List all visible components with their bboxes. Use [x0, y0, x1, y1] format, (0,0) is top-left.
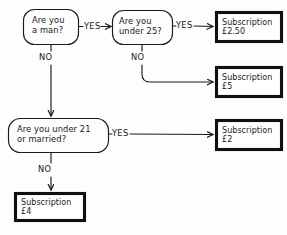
edge-label-u21-no: NO	[38, 164, 51, 174]
edge-label-u25-no: NO	[131, 52, 144, 62]
node-shape-q-under-21	[9, 119, 109, 153]
edge-label-man-no: NO	[39, 52, 52, 62]
edge-label-man-yes: YES	[84, 21, 100, 31]
edge-label-u25-yes: YES	[176, 20, 192, 30]
node-shape-sub-4	[16, 194, 85, 221]
flowchart-canvas: Are you a man? Are you under 25? Are you…	[0, 0, 287, 235]
node-shape-sub-5	[217, 68, 282, 97]
node-shape-sub-250	[217, 13, 282, 42]
node-shape-q-under-25	[113, 11, 173, 45]
node-shape-sub-2	[217, 121, 282, 150]
node-shape-q-man	[24, 10, 79, 45]
flowchart-graphics	[0, 0, 287, 235]
edge-u25-no	[142, 45, 213, 82]
edge-label-u21-yes: YES	[112, 128, 128, 138]
